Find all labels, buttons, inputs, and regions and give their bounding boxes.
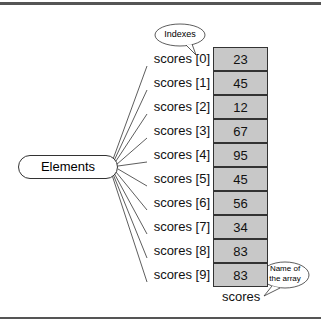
index-label: scores [7] <box>138 219 210 235</box>
array-name-label: scores <box>222 289 260 304</box>
index-label: scores [9] <box>138 267 210 283</box>
array-cell: 67 <box>213 119 268 143</box>
indexes-callout-label: Indexes <box>155 29 205 39</box>
index-label: scores [4] <box>138 147 210 163</box>
index-label: scores [0] <box>138 51 210 67</box>
array-cell: 56 <box>213 191 268 215</box>
index-label: scores [6] <box>138 195 210 211</box>
array-cell: 83 <box>213 263 268 287</box>
array-cell: 23 <box>213 47 268 71</box>
array-cell: 45 <box>213 71 268 95</box>
array-cell: 12 <box>213 95 268 119</box>
array-cell: 95 <box>213 143 268 167</box>
index-label: scores [2] <box>138 99 210 115</box>
name-callout-label-2: the array <box>261 274 309 283</box>
index-label: scores [8] <box>138 243 210 259</box>
array-cell: 83 <box>213 239 268 263</box>
index-label: scores [1] <box>138 75 210 91</box>
name-callout-label-1: Name of <box>261 264 309 273</box>
array-cell: 34 <box>213 215 268 239</box>
index-label: scores [5] <box>138 171 210 187</box>
elements-label: Elements <box>18 155 118 179</box>
array-cell: 45 <box>213 167 268 191</box>
index-label: scores [3] <box>138 123 210 139</box>
